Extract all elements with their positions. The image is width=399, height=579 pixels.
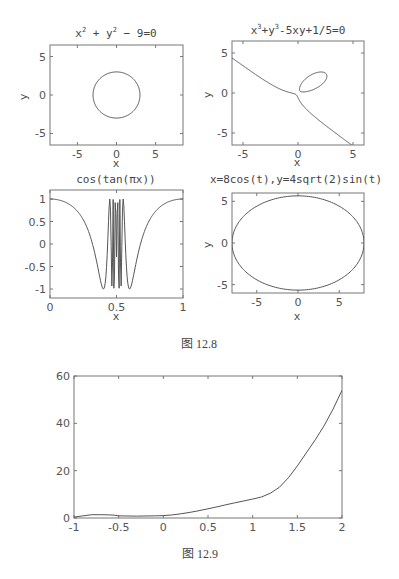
subplot-ellipse-title: x=8cos(t),y=4sqrt(2)sin(t) — [210, 173, 382, 186]
x-tick-label: -5 — [251, 296, 262, 309]
x-tick-label: 5 — [152, 148, 159, 161]
x-tick-label: 5 — [336, 296, 343, 309]
circle-curve — [93, 72, 140, 118]
x-axis-label: x — [113, 310, 120, 323]
x-tick-label: 0 — [295, 296, 302, 309]
y-tick-label: -5 — [217, 279, 228, 292]
x-tick-label: 0.5 — [199, 521, 217, 534]
y-tick-label: 5 — [39, 51, 46, 64]
subplot-ellipse: x=8cos(t),y=4sqrt(2)sin(t) -505-505xy — [201, 173, 382, 323]
axes-frame — [232, 193, 364, 293]
subplot-circle: x2 + y2 − 9=0 -505-505xy — [17, 26, 183, 170]
y-tick-label: 40 — [56, 417, 70, 430]
y-tick-label: -1 — [35, 283, 46, 296]
y-tick-label: 0 — [221, 87, 228, 100]
x-axis-label: x — [113, 157, 120, 170]
axes-frame — [74, 376, 342, 518]
y-axis-label: y — [17, 93, 30, 100]
cubic-curve — [232, 58, 352, 145]
subplot-cubic-title: x3+y3-5xy+1/5=0 — [251, 23, 346, 37]
y-tick-label: 20 — [56, 465, 70, 478]
growth-curve-line — [74, 390, 342, 517]
y-tick-label: 5 — [221, 195, 228, 208]
x-tick-label: 0 — [47, 301, 54, 314]
y-tick-label: 0 — [39, 238, 46, 251]
x-tick-label: -1 — [69, 521, 80, 534]
y-tick-label: 1 — [39, 193, 46, 206]
y-tick-label: 5 — [221, 47, 228, 60]
x-tick-label: 5 — [350, 148, 357, 161]
y-tick-label: 0 — [39, 89, 46, 102]
y-axis-label: y — [201, 91, 214, 98]
y-tick-label: 0 — [63, 512, 70, 525]
y-tick-label: -5 — [217, 127, 228, 140]
subplot-circle-title: x2 + y2 − 9=0 — [75, 26, 156, 40]
figure-12-8-caption: 图 12.8 — [181, 337, 217, 351]
x-tick-label: -5 — [72, 148, 83, 161]
subplot-growth-curve: -1-0.500.511.520204060 — [56, 370, 346, 534]
y-tick-label: 60 — [56, 370, 70, 383]
figure-canvas: x2 + y2 − 9=0 -505-505xy x3+y3-5xy+1/5=0… — [0, 0, 399, 579]
x-tick-label: 2 — [339, 521, 346, 534]
x-tick-label: -5 — [238, 148, 249, 161]
x-tick-label: 1.5 — [289, 521, 307, 534]
y-tick-label: 0.5 — [29, 216, 47, 229]
subplot-cos-tan: cos(tan(πx)) 00.51-1-0.500.51x — [25, 173, 187, 323]
subplot-cubic: x3+y3-5xy+1/5=0 -505-505xy — [201, 23, 364, 169]
figure-12-9-caption: 图 12.9 — [182, 547, 218, 561]
x-tick-label: 0 — [160, 521, 167, 534]
axes-frame — [232, 41, 364, 145]
y-axis-label: y — [201, 241, 214, 248]
cos-tan-curve — [50, 199, 183, 289]
axes-frame — [50, 45, 183, 145]
subplot-cos-tan-title: cos(tan(πx)) — [76, 173, 155, 186]
x-axis-label: x — [294, 310, 301, 323]
y-tick-label: 0 — [221, 237, 228, 250]
ellipse-curve — [232, 196, 364, 290]
y-tick-label: -0.5 — [25, 261, 46, 274]
y-tick-label: -5 — [35, 127, 46, 140]
x-tick-label: 1 — [249, 521, 256, 534]
x-tick-label: -0.5 — [108, 521, 129, 534]
x-axis-label: x — [294, 156, 301, 169]
x-tick-label: 1 — [180, 301, 187, 314]
